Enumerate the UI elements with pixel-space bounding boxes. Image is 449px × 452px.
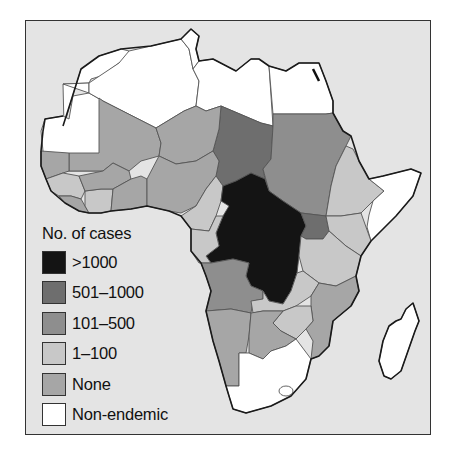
legend-label: 101–500 [72,314,135,333]
region-egypt [269,63,333,114]
legend-item-101-500: 101–500 [42,308,168,339]
legend-swatch [42,281,66,304]
legend-item-501-1000: 501–1000 [42,278,168,309]
legend-item-1-100: 1–100 [42,339,168,370]
legend-swatch [42,403,66,426]
map-frame: No. of cases >1000 501–1000 101–500 1–10… [25,20,431,435]
region-madagascar [379,303,419,379]
legend-label: Non-endemic [72,405,168,424]
legend-item-none: None [42,369,168,400]
region-liberia-sierra-leone [59,196,89,213]
legend-label: None [72,375,111,394]
region-somalia [367,169,421,241]
legend-swatch [42,312,66,335]
legend-swatch [42,373,66,396]
legend-label: 1–100 [72,344,117,363]
region-lesotho [279,386,293,396]
legend-label: >1000 [72,253,117,272]
legend-item-over-1000: >1000 [42,247,168,278]
legend-label: 501–1000 [72,283,144,302]
region-ivory-coast [85,189,113,213]
legend-swatch [42,251,66,274]
legend: No. of cases >1000 501–1000 101–500 1–10… [42,224,168,430]
legend-item-non-endemic: Non-endemic [42,400,168,431]
legend-title: No. of cases [42,224,168,243]
legend-swatch [42,342,66,365]
